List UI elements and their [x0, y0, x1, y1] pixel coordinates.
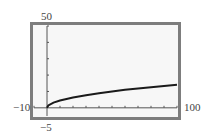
function-curve	[47, 85, 177, 108]
x-min-label: −10	[13, 102, 30, 113]
x-max-label: 100	[184, 102, 201, 113]
y-max-label: 50	[41, 11, 52, 22]
graph-plot	[0, 0, 206, 134]
y-min-label: −5	[40, 122, 52, 133]
